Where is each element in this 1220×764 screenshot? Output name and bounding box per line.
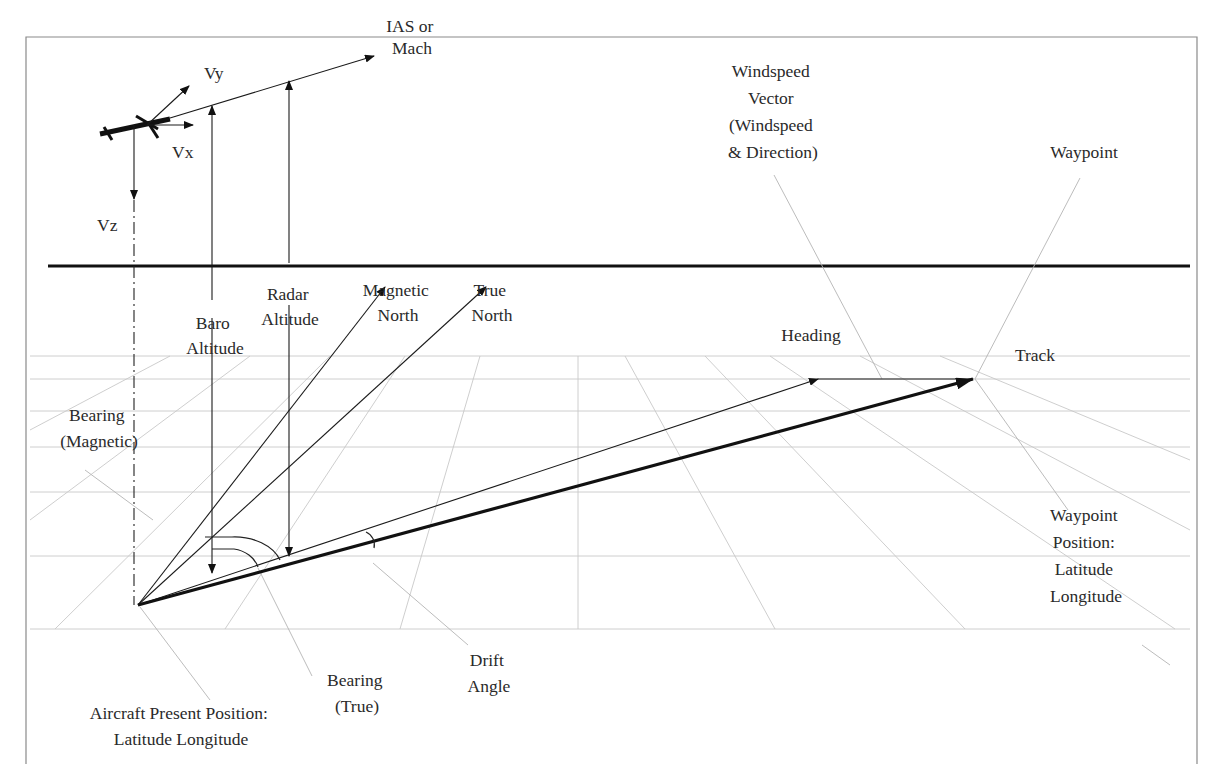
label-heading: Heading	[781, 325, 841, 345]
velocity-vectors	[134, 56, 374, 605]
figure-frame	[26, 37, 1197, 764]
navigation-diagram: IAS or Mach Vy Vx Vz Windspeed Vector (W…	[0, 0, 1220, 764]
label-vz: Vz	[97, 215, 118, 235]
label-vx: Vx	[172, 142, 194, 162]
label-aircraft-position: Aircraft Present Position: Latitude Long…	[90, 703, 272, 749]
label-radar-altitude: Radar Altitude	[261, 284, 319, 329]
label-vy: Vy	[204, 63, 224, 83]
label-track: Track	[1015, 345, 1055, 365]
label-windspeed-vector: Windspeed Vector (Windspeed & Direction)	[728, 61, 818, 162]
label-bearing-true: Bearing (True)	[327, 670, 387, 716]
label-waypoint-position: Waypoint Position: Latitude Longitude	[1050, 505, 1122, 606]
label-waypoint: Waypoint	[1050, 142, 1118, 162]
label-true-north: True North	[472, 280, 513, 325]
aircraft-icon	[100, 116, 170, 140]
label-baro-altitude: Baro Altitude	[186, 313, 244, 358]
navigation-vectors	[138, 287, 973, 605]
label-bearing-magnetic: Bearing (Magnetic)	[60, 405, 138, 451]
label-drift-angle: Drift Angle	[468, 650, 511, 696]
